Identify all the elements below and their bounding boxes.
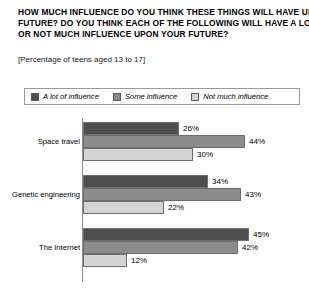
bar-row: 26% bbox=[83, 122, 303, 135]
bar-row: 42% bbox=[83, 241, 303, 254]
legend-items: A lot of influenceSome influenceNot much… bbox=[25, 89, 299, 104]
legend-item-label: Some influence bbox=[125, 92, 177, 101]
bar-row: 30% bbox=[83, 148, 303, 161]
bar-group: Genetic engineering34%43%22% bbox=[0, 175, 309, 214]
bar-value-label: 22% bbox=[168, 202, 184, 213]
chart-subtitle: [Percentage of teens aged 13 to 17] bbox=[18, 55, 145, 65]
legend-item[interactable]: A lot of influence bbox=[31, 92, 99, 101]
bar-value-label: 34% bbox=[212, 176, 228, 187]
bar-value-label: 43% bbox=[245, 189, 261, 200]
bar-group: Space travel26%44%30% bbox=[0, 122, 309, 161]
chart-title-line-3: OR NOT MUCH INFLUENCE UPON YOUR FUTURE? bbox=[18, 29, 304, 40]
legend-swatch-icon bbox=[31, 93, 39, 101]
chart-legend: A lot of influenceSome influenceNot much… bbox=[24, 88, 300, 105]
category-label: Space travel bbox=[4, 137, 80, 146]
bar-value-label: 42% bbox=[242, 242, 258, 253]
legend-swatch-icon bbox=[113, 93, 121, 101]
bar-value-label: 45% bbox=[253, 229, 269, 240]
legend-item-label: A lot of influence bbox=[43, 92, 99, 101]
legend-item[interactable]: Not much influence bbox=[191, 92, 268, 101]
bar-value-label: 12% bbox=[131, 255, 147, 266]
bar[interactable] bbox=[83, 201, 164, 214]
bar[interactable] bbox=[83, 188, 241, 201]
chart-title-line-2: FUTURE? DO YOU THINK EACH OF THE FOLLOWI… bbox=[18, 18, 304, 29]
bar[interactable] bbox=[83, 148, 193, 161]
category-label: The Internet bbox=[4, 243, 80, 252]
bar-row: 43% bbox=[83, 188, 303, 201]
bar[interactable] bbox=[83, 175, 208, 188]
bar-row: 45% bbox=[83, 228, 303, 241]
legend-swatch-icon bbox=[191, 93, 199, 101]
category-label: Genetic engineering bbox=[4, 190, 80, 199]
bar[interactable] bbox=[83, 122, 179, 135]
chart-title-line-1: HOW MUCH INFLUENCE DO YOU THINK THESE TH… bbox=[18, 7, 304, 18]
bar-value-label: 30% bbox=[197, 149, 213, 160]
bar-row: 34% bbox=[83, 175, 303, 188]
legend-item[interactable]: Some influence bbox=[113, 92, 177, 101]
bar-value-label: 26% bbox=[183, 123, 199, 134]
bar-value-label: 44% bbox=[249, 136, 265, 147]
legend-item-label: Not much influence bbox=[203, 92, 268, 101]
bar[interactable] bbox=[83, 241, 238, 254]
bar[interactable] bbox=[83, 254, 127, 267]
bar-row: 44% bbox=[83, 135, 303, 148]
bar-group: The Internet45%42%12% bbox=[0, 228, 309, 267]
chart-title: HOW MUCH INFLUENCE DO YOU THINK THESE TH… bbox=[18, 7, 304, 41]
chart-figure: HOW MUCH INFLUENCE DO YOU THINK THESE TH… bbox=[0, 0, 309, 299]
bar[interactable] bbox=[83, 228, 249, 241]
plot-area: Space travel26%44%30%Genetic engineering… bbox=[0, 118, 309, 290]
bar-row: 12% bbox=[83, 254, 303, 267]
bar-row: 22% bbox=[83, 201, 303, 214]
bar[interactable] bbox=[83, 135, 245, 148]
